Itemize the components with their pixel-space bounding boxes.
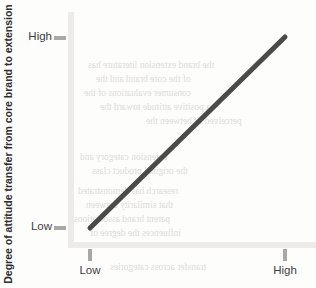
x-axis-tick-low	[88, 249, 92, 261]
y-axis-tick-high	[54, 36, 66, 40]
chart-figure: the brand extension literature has of th…	[0, 0, 316, 288]
plot-area	[0, 0, 316, 288]
x-axis-tick-label-high: High	[273, 265, 297, 277]
y-axis-tick-label-low: Low	[31, 221, 52, 233]
y-axis-tick-label-high: High	[28, 31, 52, 43]
x-axis-tick-high	[283, 249, 287, 261]
x-axis-tick-label-low: Low	[79, 265, 100, 277]
y-axis-tick-low	[54, 226, 66, 230]
trend-line	[90, 37, 285, 228]
y-axis-title: Degree of attitude transfer from core br…	[0, 0, 16, 288]
